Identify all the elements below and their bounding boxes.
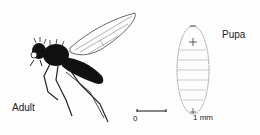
fly-wing	[70, 13, 135, 55]
pupa-label: Pupa	[222, 29, 245, 40]
fly-abdomen	[62, 58, 103, 84]
adult-fly-drawing	[30, 13, 135, 122]
scale-bar	[137, 109, 166, 112]
pupa-drawing	[177, 26, 209, 114]
scale-end-label: 1 mm	[193, 113, 213, 122]
fly-legs	[44, 64, 58, 100]
figure-canvas: Adult Pupa 0 1 mm	[0, 0, 260, 135]
scale-start-label: 0	[133, 114, 137, 123]
adult-label: Adult	[12, 102, 35, 113]
illustration	[0, 0, 260, 135]
